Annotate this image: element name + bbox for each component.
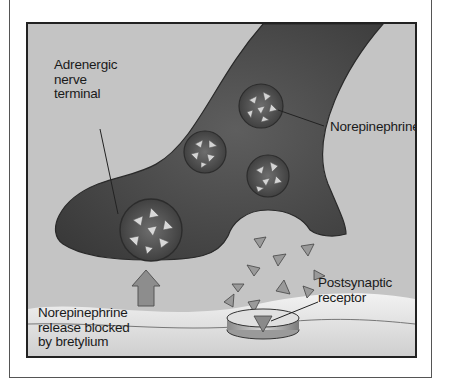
norepinephrine-label: Norepinephrine (330, 120, 417, 135)
blocked-release-arrow (132, 270, 160, 306)
postsynaptic-receptor-label: Postsynaptic receptor (318, 276, 392, 305)
postsynaptic-receptor (227, 309, 299, 339)
blocked-release-label: Norepinephrine release blocked by bretyl… (38, 306, 130, 350)
vesicle (184, 131, 226, 173)
vesicle (120, 199, 182, 261)
vesicle (247, 155, 289, 197)
synapse-diagram: Adrenergic nerve terminal Norepinephrine… (26, 22, 417, 358)
vesicle (239, 84, 283, 128)
nerve-terminal-label: Adrenergic nerve terminal (54, 58, 117, 102)
